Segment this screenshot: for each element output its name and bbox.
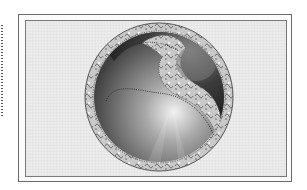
yin-yang-emblem: [84, 21, 234, 173]
dotted-scan-edge: [1, 25, 3, 117]
